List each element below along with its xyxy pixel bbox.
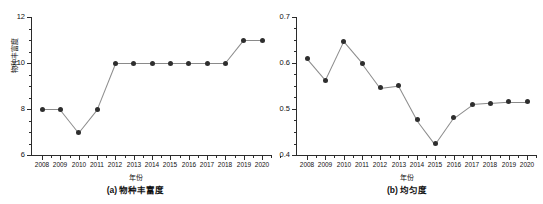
y-axis-minor-tick <box>29 75 31 76</box>
x-axis-major-tick <box>435 156 436 160</box>
x-axis-major-tick <box>380 156 381 160</box>
data-point-marker <box>525 99 530 104</box>
x-axis-tick-label: 2008 <box>300 161 314 169</box>
data-point-marker <box>415 117 420 122</box>
y-axis-major-tick <box>27 17 31 18</box>
x-axis-major-tick <box>307 156 308 160</box>
x-axis-major-tick <box>42 156 43 160</box>
y-axis-minor-tick <box>29 98 31 99</box>
data-point-marker <box>260 38 265 43</box>
data-point-marker <box>360 61 365 66</box>
x-axis-major-tick <box>115 156 116 160</box>
y-axis-minor-tick <box>29 144 31 145</box>
y-axis-major-tick <box>292 155 296 156</box>
y-axis-major-tick <box>292 17 296 18</box>
data-point-marker <box>396 83 401 88</box>
y-axis-minor-tick <box>29 132 31 133</box>
x-axis-major-tick <box>399 156 400 160</box>
x-axis-major-tick <box>362 156 363 160</box>
y-axis-minor-tick <box>29 121 31 122</box>
x-axis-tick-label: 2016 <box>182 161 196 169</box>
data-point-marker <box>223 61 228 66</box>
x-axis-tick-label: 2020 <box>520 161 534 169</box>
data-point-marker <box>451 115 456 120</box>
x-axis-minor-tick <box>198 156 199 158</box>
x-axis-major-tick <box>454 156 455 160</box>
data-point-marker <box>433 141 438 146</box>
x-axis-minor-tick <box>408 156 409 158</box>
data-point-marker <box>150 61 155 66</box>
chart-panel-b: 均匀度 0.40.50.60.7 20082009201020112012201… <box>271 0 543 204</box>
x-axis-major-tick <box>472 156 473 160</box>
panel-caption-a: (a) 物种丰富度 <box>0 185 271 196</box>
data-point-marker <box>95 107 100 112</box>
x-axis-tick-label: 2013 <box>392 161 406 169</box>
x-axis-tick-label: 2015 <box>428 161 442 169</box>
x-axis-minor-tick <box>235 156 236 158</box>
x-axis-tick-label: 2019 <box>237 161 251 169</box>
x-axis-major-tick <box>189 156 190 160</box>
x-axis-tick-label: 2010 <box>72 161 86 169</box>
x-axis-tick-label: 2013 <box>127 161 141 169</box>
data-line-segment <box>306 58 325 80</box>
x-axis-major-tick <box>509 156 510 160</box>
x-axis-major-tick <box>490 156 491 160</box>
x-axis-tick-label: 2009 <box>318 161 332 169</box>
y-axis-minor-tick <box>294 120 296 121</box>
y-axis-major-tick <box>292 63 296 64</box>
data-line-segment <box>361 63 380 88</box>
x-axis-major-tick <box>344 156 345 160</box>
x-axis-minor-tick <box>353 156 354 158</box>
data-point-marker <box>58 107 63 112</box>
y-axis-minor-tick <box>29 52 31 53</box>
x-axis-minor-tick <box>51 156 52 158</box>
data-point-marker <box>470 102 475 107</box>
x-axis-minor-tick <box>426 156 427 158</box>
data-line-segment <box>60 109 79 133</box>
x-axis-major-tick <box>417 156 418 160</box>
y-axis-minor-tick <box>29 29 31 30</box>
x-axis-title-a: 年份 <box>0 173 271 182</box>
x-axis-title-b: 年份 <box>271 173 543 182</box>
data-point-marker <box>40 107 45 112</box>
data-point-marker <box>506 99 511 104</box>
x-axis-tick-label: 2020 <box>255 161 269 169</box>
x-axis-tick-label: 2017 <box>465 161 479 169</box>
x-axis-tick-label: 2011 <box>355 161 369 169</box>
y-axis-minor-tick <box>294 51 296 52</box>
data-point-marker <box>131 61 136 66</box>
x-axis-minor-tick <box>106 156 107 158</box>
data-line-segment <box>225 40 244 64</box>
x-axis-major-tick <box>527 156 528 160</box>
y-axis-minor-tick <box>29 86 31 87</box>
x-axis-major-tick <box>60 156 61 160</box>
y-axis-minor-tick <box>294 97 296 98</box>
y-axis-major-tick <box>292 109 296 110</box>
data-point-marker <box>488 101 493 106</box>
data-point-marker <box>323 78 328 83</box>
x-axis-minor-tick <box>371 156 372 158</box>
data-line-segment <box>79 109 98 133</box>
y-axis-line <box>31 17 32 156</box>
y-axis-line <box>296 17 297 156</box>
x-axis-major-tick <box>134 156 135 160</box>
x-axis-minor-tick <box>518 156 519 158</box>
data-point-marker <box>241 38 246 43</box>
x-axis-tick-label: 2014 <box>410 161 424 169</box>
x-axis-minor-tick <box>500 156 501 158</box>
data-line-segment <box>454 104 473 118</box>
figure-container: 物种丰富度 681012 200820092010201120122013201… <box>0 0 543 204</box>
x-axis-minor-tick <box>334 156 335 158</box>
x-axis-minor-tick <box>216 156 217 158</box>
x-axis-major-tick <box>97 156 98 160</box>
x-axis-tick-label: 2009 <box>53 161 67 169</box>
data-point-marker <box>76 130 81 135</box>
x-axis-minor-tick <box>88 156 89 158</box>
y-axis-minor-tick <box>29 40 31 41</box>
x-axis-tick-label: 2018 <box>483 161 497 169</box>
x-axis-tick-label: 2014 <box>145 161 159 169</box>
x-axis-minor-tick <box>70 156 71 158</box>
x-axis-minor-tick <box>143 156 144 158</box>
data-line-segment <box>416 120 435 145</box>
x-axis-minor-tick <box>481 156 482 158</box>
